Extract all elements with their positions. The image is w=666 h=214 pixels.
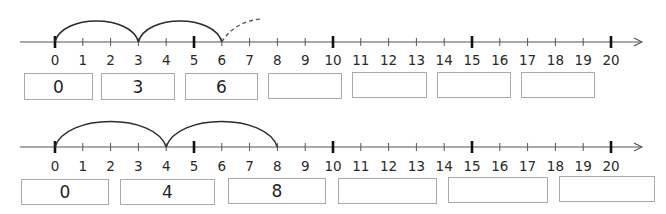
tick-label: 15 [463,52,480,68]
tick-label: 20 [602,52,619,68]
tick-label: 14 [436,158,453,174]
tick-label: 10 [324,158,341,174]
answer-box-3[interactable]: 8 [228,178,326,204]
tick-label: 11 [352,158,369,174]
answer-box-1[interactable]: 0 [21,179,109,205]
tick-label: 13 [408,158,425,174]
tick-label: 13 [408,52,425,68]
answer-box-2[interactable]: 3 [101,73,175,100]
tick-label: 2 [106,52,115,68]
answer-box-4[interactable] [268,73,342,99]
tick-label: 10 [324,52,341,68]
tick-label: 0 [51,52,60,68]
tick-label: 19 [575,52,592,68]
tick-label: 18 [547,52,564,68]
answer-box-6[interactable] [559,176,655,202]
tick-label: 20 [602,158,619,174]
jump-arc-0-to-3 [55,21,138,42]
jump-arc-3-to-6 [138,21,221,42]
tick-label: 16 [491,52,508,68]
tick-label: 5 [190,52,199,68]
tick-label: 9 [301,158,310,174]
tick-label: 19 [575,158,592,174]
answer-box-6[interactable] [437,72,511,98]
answer-box-7[interactable] [521,72,595,98]
tick-label: 1 [79,158,88,174]
tick-label: 17 [519,52,536,68]
tick-label: 12 [380,52,397,68]
tick-label: 2 [106,158,115,174]
tick-label: 14 [436,52,453,68]
tick-label: 4 [162,52,171,68]
tick-label: 1 [79,52,88,68]
tick-label: 8 [273,52,282,68]
tick-label: 0 [51,158,60,174]
tick-label: 12 [380,158,397,174]
tick-label: 7 [245,158,254,174]
tick-label: 3 [134,158,143,174]
tick-label: 8 [273,158,282,174]
jump-arc-dashed-continuation [222,19,262,42]
answer-box-5[interactable] [448,177,548,203]
number-line-2 [0,105,666,165]
tick-label: 18 [547,158,564,174]
tick-label: 5 [190,158,199,174]
tick-label: 3 [134,52,143,68]
tick-label: 4 [162,158,171,174]
tick-label: 6 [218,52,227,68]
answer-box-1[interactable]: 0 [24,73,93,100]
answer-box-3[interactable]: 6 [185,73,258,100]
answer-box-5[interactable] [352,72,427,98]
tick-label: 9 [301,52,310,68]
number-line-1 [0,0,666,60]
answer-box-2[interactable]: 4 [120,179,215,205]
tick-label: 7 [245,52,254,68]
tick-label: 6 [218,158,227,174]
tick-label: 17 [519,158,536,174]
tick-label: 11 [352,52,369,68]
answer-box-4[interactable] [338,178,437,204]
tick-label: 15 [463,158,480,174]
tick-label: 16 [491,158,508,174]
